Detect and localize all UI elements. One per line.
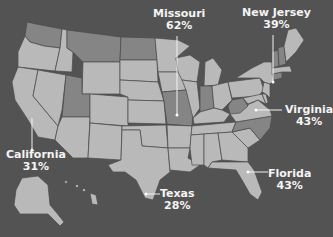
state-hawaii-4: [90, 193, 98, 205]
florida-marker: [247, 171, 250, 174]
state-mississippi: [190, 134, 204, 165]
callout-virginia-value: 43%: [285, 116, 333, 128]
missouri-marker: [176, 114, 179, 117]
callout-texas: Texas 28%: [160, 188, 195, 212]
texas-marker: [145, 193, 148, 196]
callout-texas-value: 28%: [160, 200, 195, 212]
callout-florida-value: 43%: [268, 180, 311, 192]
state-hawaii-1: [65, 181, 68, 184]
state-florida: [208, 162, 262, 200]
state-hawaii-3: [82, 188, 85, 191]
state-indiana: [200, 86, 214, 112]
state-hawaii-2: [75, 184, 78, 187]
state-montana: [67, 30, 121, 62]
state-colorado: [90, 94, 128, 126]
state-new-mexico: [88, 123, 122, 160]
virginia-marker: [255, 109, 258, 112]
state-alaska: [14, 176, 64, 226]
callout-missouri: Missouri 62%: [153, 8, 205, 32]
state-wyoming: [82, 62, 120, 94]
callout-california-value: 31%: [6, 161, 66, 173]
callout-california: California 31%: [6, 149, 66, 173]
callout-new-jersey-value: 39%: [242, 19, 311, 31]
state-north-dakota: [120, 37, 157, 60]
new-jersey-marker: [272, 81, 275, 84]
state-maine: [284, 28, 304, 62]
state-arkansas: [167, 125, 192, 148]
callout-virginia: Virginia 43%: [285, 104, 333, 128]
state-south-dakota: [120, 60, 158, 82]
callout-new-jersey: New Jersey 39%: [242, 7, 311, 31]
state-michigan: [204, 58, 222, 86]
callout-missouri-value: 62%: [153, 20, 205, 32]
callout-florida: Florida 43%: [268, 168, 311, 192]
state-kansas: [128, 100, 166, 124]
